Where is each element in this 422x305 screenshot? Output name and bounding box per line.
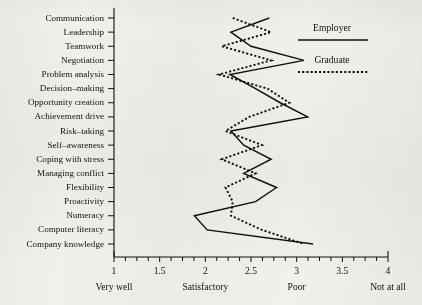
category-axis-ticks <box>108 18 114 244</box>
x-scale-description: Poor <box>288 281 307 292</box>
x-axis-tick-labels: 11.522.533.54 <box>112 265 391 276</box>
category-label: Coping with stress <box>36 154 104 164</box>
chart-container: CommunicationLeadershipTeamworkNegotiati… <box>0 0 422 305</box>
category-label: Flexibility <box>66 182 104 192</box>
x-tick-label: 4 <box>386 265 391 276</box>
category-label: Communication <box>45 13 104 23</box>
category-label: Computer literacy <box>38 224 104 234</box>
line-chart: CommunicationLeadershipTeamworkNegotiati… <box>0 0 422 305</box>
category-label: Opportunity creation <box>28 97 104 107</box>
data-series-layer <box>194 18 313 244</box>
category-label: Decision–making <box>40 83 105 93</box>
x-scale-description: Not at all <box>370 281 406 292</box>
legend-label-graduate: Graduate <box>314 54 349 65</box>
x-axis-scale-descriptions: Very wellSatisfactoryPoorNot at all <box>95 281 406 292</box>
category-label: Proactivity <box>64 196 104 206</box>
x-scale-description: Very well <box>95 281 132 292</box>
x-tick-label: 1 <box>112 265 117 276</box>
chart-legend: Employer Graduate <box>298 22 368 72</box>
category-label: Teamwork <box>65 41 104 51</box>
category-label: Risk–taking <box>60 126 104 136</box>
category-label: Managing conflict <box>37 168 104 178</box>
x-axis-ticks <box>114 257 388 262</box>
series-line-employer <box>194 18 313 244</box>
category-label: Company knowledge <box>26 239 104 249</box>
x-tick-label: 1.5 <box>154 265 166 276</box>
x-tick-label: 3 <box>294 265 299 276</box>
x-scale-description: Satisfactory <box>182 281 228 292</box>
x-tick-label: 2 <box>203 265 208 276</box>
category-label: Leadership <box>64 27 105 37</box>
x-tick-label: 3.5 <box>336 265 348 276</box>
category-label: Problem analysis <box>42 69 105 79</box>
axes <box>114 8 388 257</box>
category-label: Numeracy <box>66 210 104 220</box>
legend-label-employer: Employer <box>313 22 352 33</box>
x-tick-label: 2.5 <box>245 265 257 276</box>
category-label: Negotiation <box>61 55 104 65</box>
category-label: Achievement drive <box>35 111 104 121</box>
category-label: Self–awareness <box>47 140 104 150</box>
category-axis-labels: CommunicationLeadershipTeamworkNegotiati… <box>26 13 104 249</box>
